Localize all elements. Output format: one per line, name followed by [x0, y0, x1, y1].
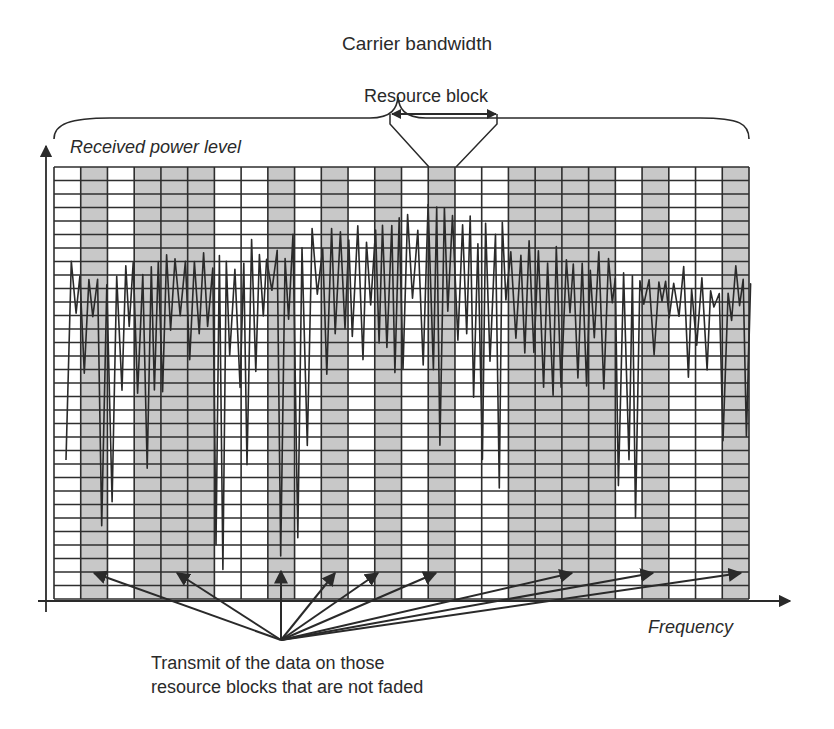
diagram-canvas: [0, 0, 834, 729]
carrier-bandwidth-brace: [54, 97, 749, 139]
resource-block-indicator: [390, 114, 497, 167]
ofdma-frequency-selective-scheduling-diagram: Carrier bandwidth Resource block Receive…: [0, 0, 834, 729]
